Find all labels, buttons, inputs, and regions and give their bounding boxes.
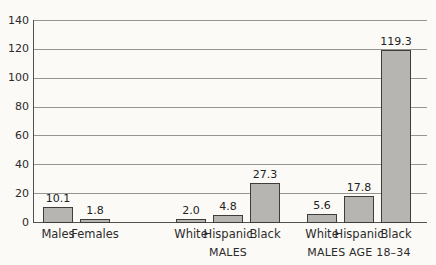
gridline bbox=[33, 107, 427, 108]
y-tick-label: 20 bbox=[0, 187, 29, 200]
bar bbox=[176, 219, 206, 223]
gridline bbox=[33, 78, 427, 79]
bar bbox=[213, 215, 243, 223]
bar-value-label: 17.8 bbox=[329, 181, 389, 194]
bar-value-label: 1.8 bbox=[65, 204, 125, 217]
bar bbox=[250, 183, 280, 223]
bar bbox=[344, 196, 374, 223]
gridline bbox=[33, 49, 427, 50]
y-tick-label: 40 bbox=[0, 158, 29, 171]
bar-category-label: Females bbox=[59, 227, 131, 241]
bar bbox=[381, 50, 411, 223]
gridline bbox=[33, 164, 427, 165]
bar-value-label: 5.6 bbox=[292, 199, 352, 212]
y-tick-label: 120 bbox=[0, 42, 29, 55]
bar-value-label: 119.3 bbox=[366, 35, 426, 48]
bar-category-label: Black bbox=[360, 227, 432, 241]
group-label: MALES AGE 18–34 bbox=[279, 246, 436, 259]
bar-value-label: 4.8 bbox=[198, 200, 258, 213]
y-tick-label: 140 bbox=[0, 14, 29, 27]
y-tick-label: 60 bbox=[0, 129, 29, 142]
gridline bbox=[33, 20, 427, 21]
bar-chart: 02040608010012014010.1Males1.8Females2.0… bbox=[0, 0, 436, 265]
y-tick-label: 80 bbox=[0, 100, 29, 113]
y-tick-label: 100 bbox=[0, 71, 29, 84]
bar-value-label: 27.3 bbox=[235, 168, 295, 181]
bar bbox=[307, 214, 337, 223]
gridline bbox=[33, 135, 427, 136]
bar bbox=[80, 219, 110, 223]
